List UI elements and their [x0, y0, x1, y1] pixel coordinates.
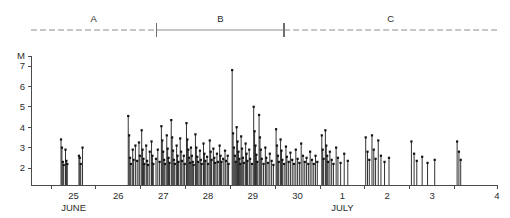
event-marker	[249, 158, 251, 160]
event-marker	[192, 161, 194, 163]
event-marker	[277, 155, 279, 157]
event-marker	[183, 155, 185, 157]
event-marker	[196, 156, 198, 158]
event-marker	[248, 149, 250, 151]
y-tick-label-7: 7	[20, 60, 25, 71]
event-marker	[195, 147, 197, 149]
event-marker	[262, 163, 264, 165]
event-marker	[327, 161, 329, 163]
event-marker	[416, 160, 418, 162]
event-marker	[167, 148, 169, 150]
event-marker	[238, 158, 240, 160]
event-marker	[321, 134, 323, 136]
event-marker	[283, 163, 285, 165]
y-axis-title: M	[17, 50, 25, 61]
event-marker	[63, 164, 65, 166]
event-marker	[142, 158, 144, 160]
event-marker	[242, 157, 244, 159]
event-marker	[307, 163, 309, 165]
event-marker	[337, 157, 339, 159]
event-marker	[176, 144, 178, 146]
x-tick-label-26: 26	[113, 190, 124, 201]
x-tick-label-29: 29	[248, 190, 259, 201]
event-marker	[79, 157, 81, 159]
event-marker	[366, 151, 368, 153]
event-marker	[434, 159, 436, 161]
event-marker	[237, 151, 239, 153]
event-marker	[81, 147, 83, 149]
event-marker	[61, 147, 63, 149]
event-marker	[145, 144, 147, 146]
event-marker	[190, 147, 192, 149]
event-marker	[186, 138, 188, 140]
event-marker	[297, 158, 299, 160]
y-tick-label-5: 5	[20, 101, 25, 112]
event-marker	[258, 114, 260, 116]
event-marker	[256, 161, 258, 163]
event-marker	[410, 140, 412, 142]
event-marker	[275, 128, 277, 130]
event-marker	[62, 161, 64, 163]
event-marker	[232, 132, 234, 134]
event-marker	[202, 142, 204, 144]
event-marker	[251, 163, 253, 165]
event-marker	[132, 149, 134, 151]
event-marker	[151, 155, 153, 157]
event-marker	[191, 155, 193, 157]
event-marker	[152, 163, 154, 165]
event-marker	[276, 144, 278, 146]
event-marker	[234, 155, 236, 157]
event-marker	[187, 149, 189, 151]
event-marker	[293, 163, 295, 165]
event-marker	[245, 142, 247, 144]
event-marker	[155, 158, 157, 160]
event-marker	[184, 163, 186, 165]
month-label-july: JULY	[331, 202, 354, 213]
event-marker	[261, 158, 263, 160]
event-marker	[295, 149, 297, 151]
event-marker	[285, 145, 287, 147]
event-marker	[181, 160, 183, 162]
event-marker	[245, 153, 247, 155]
event-marker	[127, 115, 129, 117]
event-marker	[272, 164, 274, 166]
event-marker	[267, 162, 269, 164]
month-label-june: JUNE	[61, 202, 86, 213]
event-marker	[180, 151, 182, 153]
event-marker	[324, 129, 326, 131]
event-marker	[162, 151, 164, 153]
event-marker	[421, 156, 423, 158]
event-marker	[288, 161, 290, 163]
event-marker	[207, 163, 209, 165]
event-marker	[179, 137, 181, 139]
x-tick-label-2: 2	[385, 190, 390, 201]
event-marker	[143, 163, 145, 165]
y-tick-label-3: 3	[20, 142, 25, 153]
event-marker	[225, 160, 227, 162]
event-marker	[129, 157, 131, 159]
event-marker	[157, 149, 159, 151]
event-marker	[278, 161, 280, 163]
event-marker	[374, 158, 376, 160]
event-stems-group	[60, 69, 462, 185]
event-marker	[216, 153, 218, 155]
event-marker	[388, 157, 390, 159]
event-marker	[316, 161, 318, 163]
phase-label-a: A	[91, 13, 98, 24]
event-marker	[217, 161, 219, 163]
event-marker	[279, 138, 281, 140]
event-marker	[141, 129, 143, 131]
event-marker	[204, 160, 206, 162]
event-marker	[174, 163, 176, 165]
phase-annotation-bar: ABC	[31, 13, 497, 37]
event-marker	[253, 106, 255, 108]
event-marker	[347, 160, 349, 162]
event-marker	[64, 149, 66, 151]
event-marker	[377, 139, 379, 141]
x-tick-label-27: 27	[158, 190, 169, 201]
event-marker	[228, 163, 230, 165]
event-marker	[340, 162, 342, 164]
event-marker	[209, 139, 211, 141]
event-marker	[150, 140, 152, 142]
event-marker	[331, 159, 333, 161]
